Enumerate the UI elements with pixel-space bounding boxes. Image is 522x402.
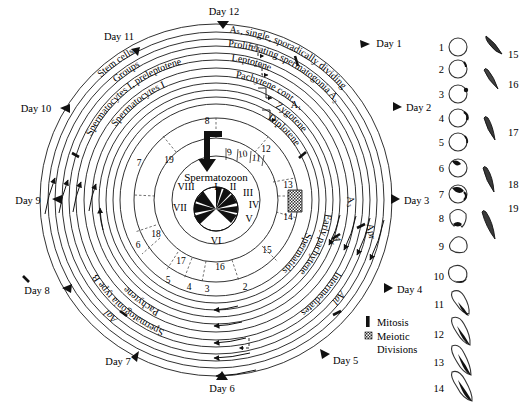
plate-num-11: 11 (434, 299, 444, 310)
spermatid-cell-10 (449, 265, 468, 282)
day-label-12: Day 12 (209, 6, 240, 17)
stage-pie-chart (194, 187, 238, 231)
day-label-7: Day 7 (105, 356, 130, 367)
day-label-5: Day 5 (333, 355, 358, 366)
roman-i: I (214, 181, 217, 192)
plate-num-6: 6 (439, 163, 444, 174)
label-a1: A₁ (291, 99, 302, 110)
day-label-4: Day 4 (397, 284, 423, 295)
spermatid-cell-3 (449, 85, 467, 103)
day-label-8: Day 8 (24, 285, 49, 296)
stage-num-19: 19 (164, 155, 174, 165)
plate-num-9: 9 (439, 241, 444, 252)
stage-num-15: 15 (262, 245, 272, 255)
legend-mitosis-swatch (366, 316, 370, 327)
plate-num-4: 4 (439, 113, 445, 124)
stage-num-6: 6 (136, 240, 141, 250)
stage-num-14: 14 (283, 212, 293, 222)
plate-num-17: 17 (508, 127, 519, 138)
stage-num-7: 7 (137, 158, 142, 168)
spermatid-cell-5 (449, 133, 467, 151)
day-label-9: Day 9 (15, 195, 40, 206)
legend-meiotic-swatch (365, 332, 372, 339)
label-a3: A₃ (345, 195, 358, 208)
roman-vii: VII (173, 202, 187, 213)
stage-num-12: 12 (261, 144, 271, 154)
day-label-11: Day 11 (104, 31, 134, 42)
inner-num-11: 11 (251, 153, 261, 164)
stage-num-4: 4 (187, 282, 192, 292)
stage-num-2: 2 (243, 282, 248, 292)
plate-num-7: 7 (439, 189, 444, 200)
plate-num-15: 15 (508, 49, 519, 60)
plate-num-18: 18 (508, 179, 519, 190)
spermatogenesis-cycle-diagram: Day 1 Day 2 Day 3 Day 4 Day 5 Day 6 Day … (0, 0, 522, 402)
roman-viii: VIII (177, 181, 194, 192)
inner-num-10: 10 (237, 149, 248, 160)
legend-meiotic-label-2: Divisions (377, 344, 417, 355)
plate-num-5: 5 (439, 137, 444, 148)
meiotic-division-box (288, 190, 302, 212)
figure-root: Day 1 Day 2 Day 3 Day 4 Day 5 Day 6 Day … (0, 0, 522, 402)
stage-num-16: 16 (215, 262, 225, 272)
day-label-10: Day 10 (21, 103, 52, 114)
plate-num-10: 10 (434, 271, 445, 282)
plate-num-19: 19 (508, 203, 519, 214)
roman-ii: II (230, 181, 237, 192)
plate-num-1: 1 (439, 42, 444, 53)
plate-num-16: 16 (508, 79, 519, 90)
day-label-1: Day 1 (376, 38, 401, 49)
legend-mitosis-label: Mitosis (377, 317, 409, 328)
roman-vi: VI (211, 235, 222, 246)
day-label-2: Day 2 (406, 102, 431, 113)
spermatid-cell-1 (449, 38, 467, 56)
plate-num-3: 3 (439, 89, 444, 100)
stage-num-13: 13 (283, 180, 293, 190)
roman-iv: IV (249, 199, 260, 210)
stage-num-5: 5 (166, 275, 171, 285)
stage-num-8: 8 (205, 116, 210, 126)
stage-num-18: 18 (151, 229, 161, 239)
stage-num-17: 17 (176, 256, 186, 266)
stage-num-3: 3 (205, 284, 210, 294)
day-label-3: Day 3 (404, 195, 429, 206)
legend-meiotic-label-1: Meiotic (377, 331, 410, 342)
roman-iii: III (243, 187, 253, 198)
plate-num-13: 13 (434, 357, 445, 368)
day-label-6: Day 6 (209, 383, 234, 394)
plate-num-12: 12 (434, 329, 445, 340)
plate-num-2: 2 (439, 64, 444, 75)
plate-num-14: 14 (434, 383, 445, 394)
roman-v: V (245, 213, 253, 224)
plate-num-8: 8 (439, 213, 444, 224)
